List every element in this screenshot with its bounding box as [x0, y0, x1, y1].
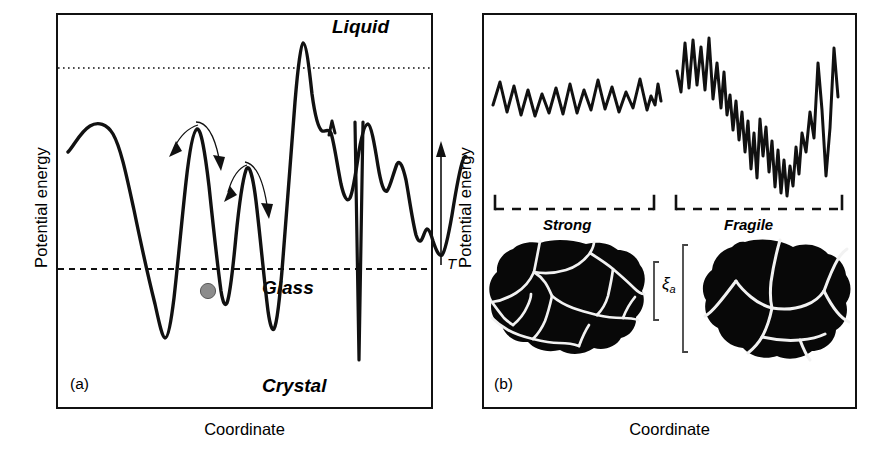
crr-cluster-fragile: [703, 240, 851, 360]
relaxation-arrow-4-head: [261, 203, 273, 219]
temperature-arrow-head: [436, 141, 446, 157]
strong-bracket-end-ticks: [495, 196, 654, 209]
figure-vector-overlay: [0, 0, 882, 462]
fragile-energy-landscape-curve: [677, 38, 838, 196]
xi-bracket-strong: [654, 262, 659, 320]
strong-energy-landscape-curve: [493, 79, 661, 116]
crr-cluster-strong-body: [489, 240, 645, 354]
panel-a-energy-landscape-curve: [68, 43, 466, 338]
relaxation-arrow-2-head: [213, 155, 225, 171]
fragile-bracket-end-ticks: [676, 196, 842, 209]
crr-cluster-strong: [489, 240, 645, 354]
relaxation-arrow-2-arc: [196, 122, 219, 158]
trapped-particle-ball: [200, 283, 215, 298]
figure-root: Potential energy Coordinate Liquid Glass…: [0, 0, 882, 462]
xi-bracket-fragile: [683, 245, 688, 352]
relaxation-arrow-1-head: [169, 141, 182, 157]
relaxation-arrow-3-head: [224, 186, 237, 202]
